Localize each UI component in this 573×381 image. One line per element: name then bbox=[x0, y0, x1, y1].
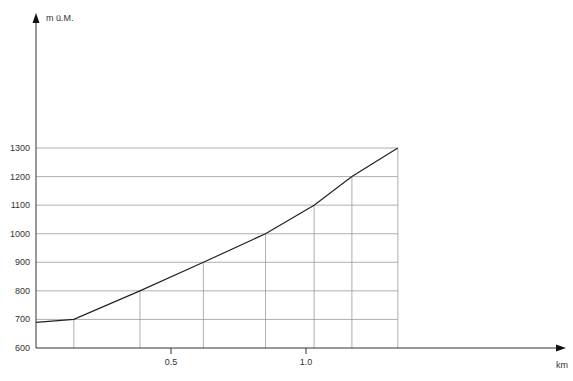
y-tick-label: 1000 bbox=[10, 229, 30, 239]
x-tick-label: 1.0 bbox=[300, 357, 313, 367]
y-tick-label: 1300 bbox=[10, 143, 30, 153]
elevation-profile-chart: 6007008009001000110012001300 0.51.0 m ü.… bbox=[0, 0, 573, 381]
y-axis-arrow-icon bbox=[33, 13, 40, 23]
y-tick-label: 800 bbox=[15, 286, 30, 296]
y-tick-label: 600 bbox=[15, 343, 30, 353]
elevation-line bbox=[36, 148, 398, 322]
y-tick-label: 1100 bbox=[11, 200, 30, 210]
axes bbox=[33, 13, 567, 352]
x-axis-label: km bbox=[556, 360, 568, 370]
y-tick-labels: 6007008009001000110012001300 bbox=[10, 143, 30, 353]
y-axis-label: m ü.M. bbox=[46, 13, 74, 23]
x-axis-arrow-icon bbox=[556, 345, 566, 352]
x-tick-labels: 0.51.0 bbox=[165, 348, 313, 367]
x-tick-label: 0.5 bbox=[165, 357, 178, 367]
y-tick-label: 700 bbox=[15, 314, 30, 324]
y-tick-label: 1200 bbox=[10, 172, 30, 182]
y-tick-label: 900 bbox=[15, 257, 30, 267]
grid-lines bbox=[36, 148, 398, 319]
